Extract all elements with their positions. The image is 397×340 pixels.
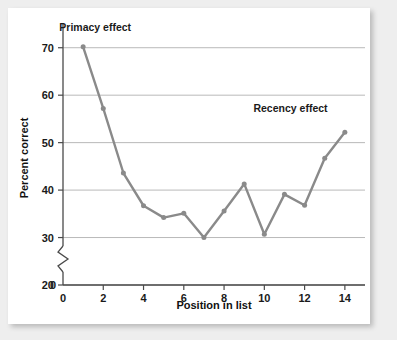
data-point-marker bbox=[121, 171, 126, 176]
data-point-marker bbox=[282, 192, 287, 197]
y-tick-label: 30 bbox=[42, 232, 54, 244]
x-tick-label: 4 bbox=[140, 292, 147, 304]
data-point-marker bbox=[262, 232, 267, 237]
data-point-marker bbox=[81, 44, 86, 49]
gridlines bbox=[63, 48, 365, 285]
x-tick-label: 2 bbox=[100, 292, 106, 304]
primacy-effect-annotation: Primacy effect bbox=[59, 21, 131, 33]
y-tick-label: 40 bbox=[42, 184, 54, 196]
x-tick-label: 12 bbox=[298, 292, 310, 304]
y-axis-break-icon bbox=[58, 246, 68, 272]
x-axis-ticks bbox=[103, 285, 345, 290]
y-tick-label: 70 bbox=[42, 42, 54, 54]
serial-position-curve-chart: 203040506070 24681012140 0 Position in l… bbox=[8, 8, 370, 324]
data-point-marker bbox=[161, 215, 166, 220]
data-point-marker bbox=[302, 203, 307, 208]
x-axis-title: Position in list bbox=[176, 299, 252, 311]
recency-effect-annotation: Recency effect bbox=[253, 102, 328, 114]
x-tick-label: 10 bbox=[258, 292, 270, 304]
y-tick-label: 60 bbox=[42, 89, 54, 101]
data-point-marker bbox=[222, 208, 227, 213]
y-axis-origin-label: 0 bbox=[50, 279, 56, 291]
y-axis-tick-labels: 203040506070 bbox=[42, 42, 54, 291]
data-point-marker bbox=[101, 106, 106, 111]
figure-card: 203040506070 24681012140 0 Position in l… bbox=[8, 8, 370, 324]
y-axis-title: Percent correct bbox=[18, 117, 30, 198]
x-origin-label: 0 bbox=[60, 292, 66, 304]
x-tick-label: 14 bbox=[339, 292, 352, 304]
data-point-marker bbox=[242, 181, 247, 186]
data-point-marker bbox=[141, 203, 146, 208]
data-point-marker bbox=[201, 235, 206, 240]
y-tick-label: 50 bbox=[42, 137, 54, 149]
data-point-marker bbox=[322, 156, 327, 161]
figure-root: 203040506070 24681012140 0 Position in l… bbox=[0, 0, 397, 340]
data-point-marker bbox=[181, 211, 186, 216]
data-point-marker bbox=[342, 130, 347, 135]
